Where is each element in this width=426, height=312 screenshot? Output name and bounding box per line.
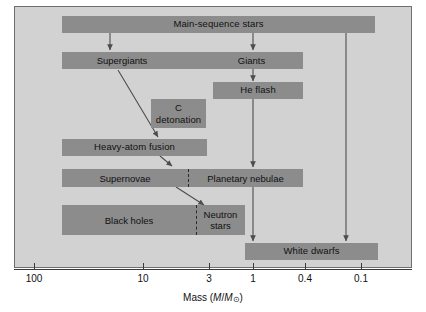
node-white-dwarfs[interactable]: White dwarfs bbox=[245, 243, 378, 260]
axis-title-prefix: Mass ( bbox=[183, 292, 213, 303]
mass-axis-tick-label: 1 bbox=[250, 273, 256, 284]
axis-title-suffix: ) bbox=[240, 292, 243, 303]
mass-axis-tick bbox=[209, 263, 210, 269]
mass-axis-tick-label: 10 bbox=[137, 273, 148, 284]
node-heavy-atom-fusion[interactable]: Heavy-atom fusion bbox=[62, 139, 207, 156]
sun-symbol-icon: ⊙ bbox=[233, 295, 240, 304]
node-giants-label: Giants bbox=[238, 55, 265, 66]
mass-axis-tick-label: 3 bbox=[206, 273, 212, 284]
mass-axis-tick bbox=[143, 263, 144, 269]
node-supernovae-label: Supernovae bbox=[99, 173, 150, 184]
node-c-detonation-label-line1: C bbox=[175, 102, 182, 113]
node-black-holes-label: Black holes bbox=[105, 215, 154, 226]
node-c-detonation-label-line2: detonation bbox=[156, 114, 201, 125]
node-main-sequence-stars[interactable]: Main-sequence stars bbox=[62, 16, 375, 33]
mass-axis-tick-label: 0.1 bbox=[354, 273, 368, 284]
mass-axis-tick-label: 100 bbox=[26, 273, 43, 284]
node-black-holes-label-wrap: Black holes bbox=[62, 205, 196, 235]
node-supergiants-label: Supergiants bbox=[97, 55, 148, 66]
node-he-flash-label: He flash bbox=[240, 85, 276, 96]
node-neutron-stars-label-line1: Neutron bbox=[204, 209, 238, 220]
mass-axis-tick bbox=[34, 263, 35, 269]
node-he-flash[interactable]: He flash bbox=[213, 82, 303, 99]
mass-axis-tick bbox=[361, 263, 362, 269]
node-c-detonation[interactable]: C detonation bbox=[151, 99, 206, 128]
node-supernovae-label-wrap: Supernovae bbox=[62, 169, 188, 187]
node-supergiants-label-wrap: Supergiants bbox=[62, 52, 182, 69]
axis-title-m2: M bbox=[224, 292, 232, 303]
stellar-evolution-figure: Main-sequence stars Supergiants Giants H… bbox=[0, 0, 426, 312]
mass-axis-tick-label: 0.4 bbox=[298, 273, 312, 284]
node-main-sequence-stars-label: Main-sequence stars bbox=[173, 19, 263, 30]
node-neutron-stars-label-line2: stars bbox=[210, 220, 231, 231]
mass-axis-tick bbox=[253, 263, 254, 269]
node-planetary-nebulae-label: Planetary nebulae bbox=[207, 173, 284, 184]
node-planetary-nebulae-label-wrap: Planetary nebulae bbox=[188, 169, 303, 187]
divider-supernovae-planetarynebulae bbox=[188, 169, 189, 187]
divider-blackholes-neutronstars bbox=[196, 205, 197, 235]
mass-axis-tick bbox=[305, 263, 306, 269]
mass-axis-line bbox=[14, 269, 412, 270]
node-white-dwarfs-label: White dwarfs bbox=[283, 246, 339, 257]
node-giants-label-wrap: Giants bbox=[200, 52, 303, 69]
mass-axis-title: Mass (M/M⊙) bbox=[0, 292, 426, 304]
node-neutron-stars-label-wrap: Neutron stars bbox=[196, 205, 245, 235]
node-heavy-atom-fusion-label: Heavy-atom fusion bbox=[94, 142, 175, 153]
